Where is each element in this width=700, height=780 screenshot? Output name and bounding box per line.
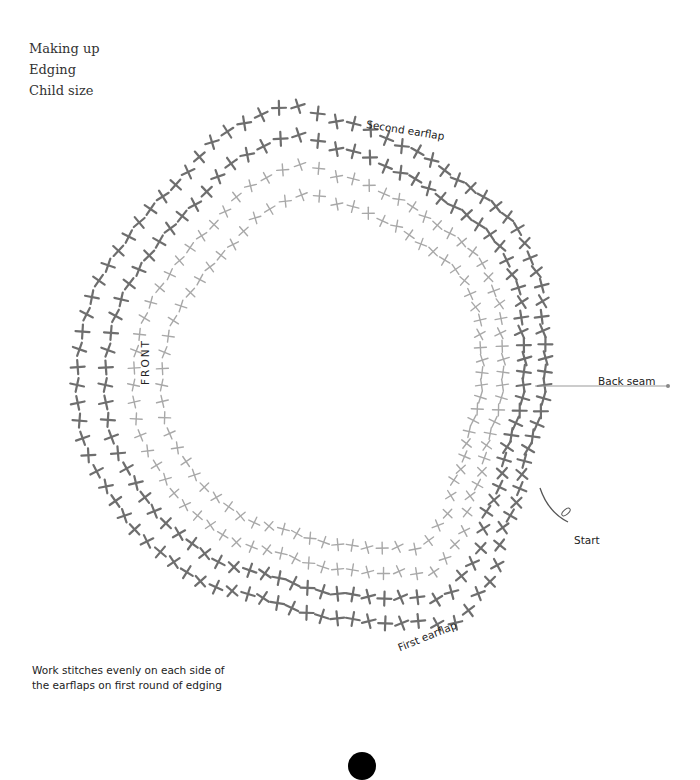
stitch-symbol bbox=[158, 472, 173, 487]
stitch-symbol bbox=[378, 616, 393, 631]
stitch-symbol bbox=[452, 566, 472, 586]
stitch-symbol bbox=[390, 539, 406, 555]
stitch-symbol bbox=[360, 565, 375, 580]
stitch-symbol bbox=[274, 546, 288, 560]
stitch-symbol bbox=[232, 508, 249, 525]
stitch-symbol bbox=[310, 133, 325, 148]
stitch-symbol bbox=[478, 437, 495, 454]
stitch-symbol bbox=[363, 179, 375, 191]
stitch-symbol bbox=[508, 219, 527, 238]
stitch-symbol bbox=[459, 504, 476, 521]
stitch-symbol bbox=[376, 157, 394, 175]
stitch-symbol bbox=[289, 97, 307, 115]
stitch-symbol bbox=[100, 412, 115, 427]
stitch-symbol bbox=[294, 187, 309, 202]
stitch-symbol bbox=[252, 105, 271, 124]
stitch-symbol bbox=[513, 404, 527, 418]
stitch-symbol bbox=[197, 182, 217, 202]
stitch-symbol bbox=[484, 490, 504, 510]
stitch-symbol bbox=[130, 260, 148, 278]
stitch-symbol bbox=[513, 310, 529, 326]
stitch-symbol bbox=[239, 585, 256, 602]
stitch-symbol bbox=[480, 269, 497, 286]
stitch-symbol bbox=[150, 232, 169, 251]
stitch-symbol bbox=[431, 188, 451, 208]
stitch-symbol bbox=[459, 601, 479, 621]
stitch-symbol bbox=[99, 256, 117, 274]
stitch-symbol bbox=[518, 439, 537, 458]
stitch-symbol bbox=[374, 213, 390, 229]
stitch-symbol bbox=[461, 178, 481, 198]
stitch-symbol bbox=[462, 488, 479, 505]
stitch-symbol bbox=[110, 446, 125, 461]
stitch-symbol bbox=[182, 534, 202, 554]
stitch-symbol bbox=[467, 299, 484, 316]
stitch-symbol bbox=[218, 122, 237, 141]
stitch-symbol bbox=[510, 279, 528, 297]
stitch-symbol bbox=[477, 502, 496, 521]
stitch-symbol bbox=[70, 360, 85, 375]
stitch-symbol bbox=[471, 538, 491, 558]
stitch-symbol bbox=[486, 283, 501, 298]
stitch-symbol bbox=[483, 427, 497, 441]
stitch-symbol bbox=[446, 536, 463, 553]
stitch-symbol bbox=[330, 197, 344, 211]
stitch-symbol bbox=[497, 251, 516, 270]
stitch-symbol bbox=[534, 309, 550, 325]
stitch-symbol bbox=[312, 162, 325, 175]
stitch-symbol bbox=[71, 340, 89, 358]
stitch-symbol bbox=[493, 518, 513, 538]
stitch-symbol bbox=[235, 223, 252, 240]
stitch-symbol bbox=[202, 517, 219, 534]
stitch-symbol bbox=[474, 519, 493, 538]
stitch-symbol bbox=[514, 389, 531, 406]
stitch-symbol bbox=[75, 324, 90, 339]
stitch-symbol bbox=[130, 413, 143, 426]
stitch-symbol bbox=[417, 209, 432, 224]
stitch-symbol bbox=[171, 441, 185, 455]
stitch-symbol bbox=[310, 106, 325, 121]
stitch-symbol bbox=[262, 201, 278, 217]
label-front: FRONT bbox=[139, 339, 151, 385]
stitch-symbol bbox=[458, 435, 475, 452]
stitch-symbol bbox=[228, 534, 245, 551]
stitch-symbol bbox=[345, 586, 361, 602]
stitch-symbol bbox=[177, 497, 193, 513]
stitch-symbol bbox=[393, 165, 409, 181]
stitch-symbol bbox=[316, 535, 331, 550]
stitch-symbol bbox=[376, 542, 388, 554]
stitch-symbol bbox=[113, 291, 130, 308]
stitch-symbol bbox=[182, 239, 199, 256]
stitch-symbol bbox=[537, 377, 553, 393]
stitch-symbol bbox=[261, 518, 278, 535]
stitch-symbol bbox=[201, 259, 218, 276]
stitch-symbol bbox=[165, 312, 182, 329]
stitch-symbol bbox=[346, 172, 361, 187]
stitch-symbol bbox=[494, 390, 509, 405]
stitch-symbol bbox=[330, 170, 344, 184]
stitch-symbol bbox=[284, 574, 303, 593]
back-seam-endpoint bbox=[666, 384, 670, 388]
stitch-symbol bbox=[439, 505, 456, 522]
stitch-symbol bbox=[178, 453, 195, 470]
page-marker-dot bbox=[348, 752, 376, 780]
stitch-symbol bbox=[182, 284, 199, 301]
stitch-symbol bbox=[162, 426, 178, 442]
stitch-symbol bbox=[404, 199, 421, 216]
note-line-1: Work stitches evenly on each side of bbox=[32, 663, 225, 678]
stitch-symbol bbox=[473, 390, 488, 405]
stitch-symbol bbox=[299, 606, 313, 620]
stitch-symbol bbox=[193, 227, 210, 244]
stitch-symbol bbox=[102, 428, 120, 446]
stitch-symbol bbox=[429, 217, 446, 234]
stitch-symbol bbox=[185, 195, 204, 214]
stitch-symbol bbox=[462, 286, 478, 302]
stitch-symbol bbox=[166, 485, 183, 502]
stitch-symbol bbox=[346, 199, 361, 214]
stitch-symbol bbox=[84, 289, 100, 305]
stitch-symbol bbox=[125, 520, 145, 540]
stitch-symbol bbox=[537, 364, 553, 380]
stitch-symbol bbox=[192, 271, 208, 287]
stitch-symbol bbox=[106, 306, 125, 325]
stitch-symbol bbox=[282, 599, 301, 618]
